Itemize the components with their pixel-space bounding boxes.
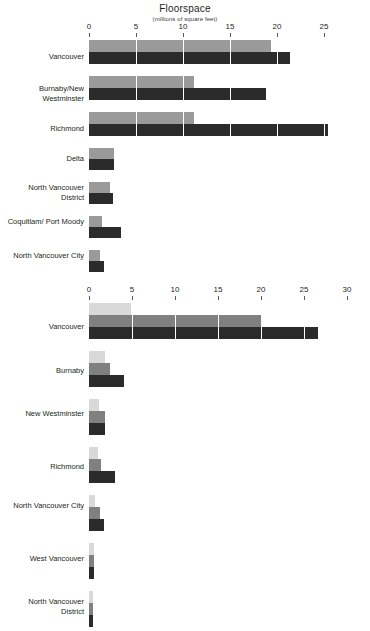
chart-bottom-row: Burnaby [0, 351, 370, 393]
chart-bottom-bar-mid [89, 507, 100, 519]
chart-bottom-row: Vancouver [0, 303, 370, 345]
chart-top-bar-light [89, 76, 194, 88]
chart-top-x-tick-label: 10 [170, 22, 196, 32]
page-title: Floorspace [0, 3, 370, 15]
chart-bottom-row: Richmond [0, 447, 370, 489]
chart-bottom-bar-group [89, 303, 318, 339]
chart-top-bar-dark [89, 88, 266, 100]
chart-bottom-x-tick-label: 20 [248, 285, 274, 295]
chart-bottom-bar-dark [89, 615, 93, 627]
chart-bottom-x-tick-label: 0 [76, 285, 102, 295]
chart-bottom-x-tick: 0 [76, 285, 102, 300]
chart-bottom-bar-dark [89, 519, 104, 531]
chart-top-x-tick-mark [324, 33, 325, 37]
chart-bottom-x-tick-label: 10 [162, 285, 188, 295]
chart-bottom-bar-group [89, 447, 115, 483]
chart-top-category-label: Burnaby/New Westminster [6, 84, 84, 103]
chart-bottom-bar-group [89, 351, 124, 387]
chart-top-x-tick-mark [89, 33, 90, 37]
chart-bottom-bar-dark [89, 327, 318, 339]
chart-bottom-bar-lighter [89, 303, 131, 315]
chart-top-category-label: Coquitlam/ Port Moody [6, 217, 84, 227]
chart-top-bar-group [89, 148, 114, 170]
chart-bottom-category-label: Burnaby [6, 366, 84, 376]
chart-top: 0510152025 VancouverBurnaby/New Westmins… [0, 22, 370, 272]
chart-top-bar-group [89, 216, 121, 238]
chart-top-x-tick: 25 [311, 22, 337, 37]
chart-top-bar-group [89, 76, 266, 100]
chart-top-x-tick-label: 20 [264, 22, 290, 32]
chart-top-x-tick: 5 [123, 22, 149, 37]
chart-top-row: Coquitlam/ Port Moody [0, 216, 370, 242]
chart-top-x-tick-label: 5 [123, 22, 149, 32]
chart-bottom-x-tick-label: 5 [119, 285, 145, 295]
chart-bottom-bar-dark [89, 423, 105, 435]
chart-bottom-category-label: North Vancouver District [6, 597, 84, 616]
chart-bottom-x-tick: 10 [162, 285, 188, 300]
chart-bottom: 051015202530 VancouverBurnabyNew Westmin… [0, 285, 370, 585]
chart-bottom-x-tick-mark [218, 296, 219, 300]
chart-top-bar-light [89, 148, 114, 159]
chart-bottom-plot-area: VancouverBurnabyNew WestminsterRichmondN… [0, 303, 370, 631]
chart-top-row: Vancouver [0, 40, 370, 72]
chart-bottom-bar-group [89, 591, 93, 627]
chart-top-category-label: Delta [6, 154, 84, 164]
chart-bottom-bar-mid [89, 603, 93, 615]
chart-top-x-tick-label: 15 [217, 22, 243, 32]
chart-top-bar-group [89, 250, 104, 272]
chart-bottom-bar-mid [89, 411, 105, 423]
chart-bottom-category-label: Vancouver [6, 322, 84, 332]
chart-top-x-tick-label: 25 [311, 22, 337, 32]
chart-top-bar-group [89, 182, 113, 204]
chart-bottom-category-label: North Vancouver City [6, 501, 84, 511]
chart-top-bar-dark [89, 159, 114, 170]
chart-bottom-x-tick: 30 [334, 285, 360, 300]
chart-bottom-x-tick: 5 [119, 285, 145, 300]
chart-title-block: Floorspace (millions of square feet) [0, 3, 370, 24]
chart-top-bar-group [89, 112, 328, 136]
chart-bottom-bar-mid [89, 459, 101, 471]
chart-top-x-tick-label: 0 [76, 22, 102, 32]
chart-top-row: Richmond [0, 112, 370, 144]
chart-bottom-x-tick-mark [132, 296, 133, 300]
chart-top-x-tick: 15 [217, 22, 243, 37]
chart-top-bar-dark [89, 227, 121, 238]
chart-bottom-x-tick-label: 30 [334, 285, 360, 295]
chart-top-category-label: Vancouver [6, 52, 84, 62]
chart-bottom-x-tick-mark [261, 296, 262, 300]
chart-bottom-x-tick-mark [347, 296, 348, 300]
chart-bottom-category-label: West Vancouver [6, 554, 84, 564]
chart-top-row: North Vancouver City [0, 250, 370, 276]
chart-top-x-tick: 0 [76, 22, 102, 37]
chart-bottom-bar-mid [89, 363, 110, 375]
chart-bottom-category-label: New Westminster [6, 409, 84, 419]
chart-top-bar-dark [89, 52, 290, 64]
chart-bottom-x-tick-mark [304, 296, 305, 300]
chart-top-bar-dark [89, 193, 113, 204]
chart-bottom-bar-lighter [89, 495, 95, 507]
chart-bottom-bar-group [89, 399, 105, 435]
chart-bottom-x-axis: 051015202530 [0, 285, 370, 303]
chart-top-x-tick: 20 [264, 22, 290, 37]
chart-bottom-bar-group [89, 495, 104, 531]
chart-bottom-bar-dark [89, 567, 94, 579]
chart-bottom-bar-lighter [89, 399, 99, 411]
chart-bottom-x-tick-label: 25 [291, 285, 317, 295]
chart-bottom-x-tick: 20 [248, 285, 274, 300]
chart-bottom-x-tick-mark [89, 296, 90, 300]
chart-bottom-x-tick-label: 15 [205, 285, 231, 295]
chart-top-category-label: North Vancouver City [6, 251, 84, 261]
chart-bottom-bar-lighter [89, 591, 93, 603]
chart-top-x-tick: 10 [170, 22, 196, 37]
chart-top-row: Burnaby/New Westminster [0, 76, 370, 108]
chart-bottom-row: North Vancouver City [0, 495, 370, 537]
chart-top-category-label: Richmond [6, 124, 84, 134]
chart-bottom-bar-dark [89, 375, 124, 387]
chart-top-category-label: North Vancouver District [6, 183, 84, 202]
chart-top-plot-area: VancouverBurnaby/New WestminsterRichmond… [0, 40, 370, 276]
chart-top-x-tick-mark [230, 33, 231, 37]
chart-top-bar-light [89, 182, 110, 193]
chart-bottom-bar-lighter [89, 351, 105, 363]
chart-bottom-row: North Vancouver District [0, 591, 370, 631]
